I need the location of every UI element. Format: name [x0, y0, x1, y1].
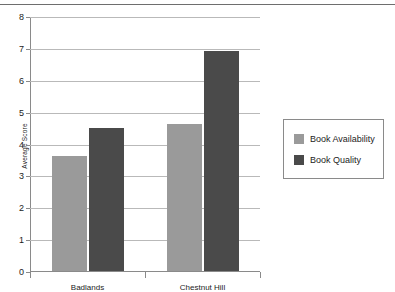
y-axis-tick-label: 3: [19, 172, 24, 181]
y-axis-tick-label: 5: [19, 108, 24, 117]
y-axis-tick-label: 4: [19, 140, 24, 149]
x-axis-group-tick: [30, 272, 31, 278]
legend-swatch-icon-book-quality: [294, 155, 304, 165]
gridline: [30, 49, 260, 50]
y-axis-tick: [26, 208, 30, 209]
y-axis-tick-label: 2: [19, 204, 24, 213]
bar: [89, 128, 124, 271]
y-axis-tick: [26, 113, 30, 114]
y-axis-tick: [26, 17, 30, 18]
legend-label-book-quality: Book Quality: [310, 155, 361, 165]
bar: [167, 124, 202, 271]
bar: [204, 51, 239, 271]
y-axis-tick: [26, 240, 30, 241]
y-axis-tick: [26, 176, 30, 177]
top-divider-rule: [0, 4, 395, 5]
bar: [52, 156, 87, 271]
y-axis-tick-label: 0: [19, 268, 24, 277]
x-axis-group-tick: [260, 272, 261, 278]
legend-item-book-quality: Book Quality: [294, 155, 383, 165]
y-axis-tick: [26, 49, 30, 50]
chart-legend: Book Availability Book Quality: [283, 119, 384, 179]
legend-swatch-icon-book-availability: [294, 134, 304, 144]
x-axis-group-tick: [145, 272, 146, 278]
x-axis-category-label: Badlands: [71, 283, 104, 292]
y-axis-tick-label: 7: [19, 44, 24, 53]
plot-area: 012345678 BadlandsChestnut Hill: [30, 17, 260, 272]
y-axis-tick: [26, 145, 30, 146]
y-axis-tick-label: 6: [19, 76, 24, 85]
y-axis-tick-label: 1: [19, 236, 24, 245]
x-axis-category-label: Chestnut Hill: [180, 283, 225, 292]
y-axis-tick: [26, 81, 30, 82]
gridline: [30, 17, 260, 18]
legend-item-book-availability: Book Availability: [294, 134, 383, 144]
legend-label-book-availability: Book Availability: [310, 134, 375, 144]
bar-chart-figure: Average Score 012345678 BadlandsChestnut…: [0, 0, 395, 292]
y-axis-tick-label: 8: [19, 13, 24, 22]
